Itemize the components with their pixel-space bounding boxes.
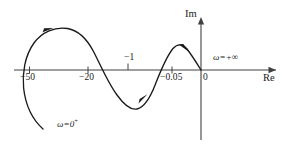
omega-infinity-annotation: ω=+∞	[213, 53, 238, 62]
omega-zero-text: ω=0	[57, 119, 74, 129]
direction-arrow-upper-right	[179, 44, 190, 52]
tick-label-minus-0-05: −0.05	[160, 73, 182, 83]
real-axis-label: Re	[263, 73, 275, 84]
imaginary-axis-label: Im	[185, 9, 197, 20]
nyquist-plot-canvas	[0, 0, 293, 145]
tick-label-minus-50: −50	[20, 73, 35, 83]
origin-label: 0	[203, 73, 208, 83]
real-axis	[14, 67, 276, 73]
imaginary-axis-arrowhead	[198, 17, 204, 25]
tick-label-minus-1: −1	[124, 53, 134, 63]
omega-infinity-text: ω=+∞	[213, 52, 238, 62]
tick-label-minus-20: −20	[79, 73, 94, 83]
nyquist-plot-figure: −50 −20 −1 −0.05 0 Re Im ω=0+ ω=+∞	[0, 0, 293, 145]
omega-zero-superscript: +	[74, 117, 78, 124]
omega-zero-annotation: ω=0+	[57, 118, 78, 129]
